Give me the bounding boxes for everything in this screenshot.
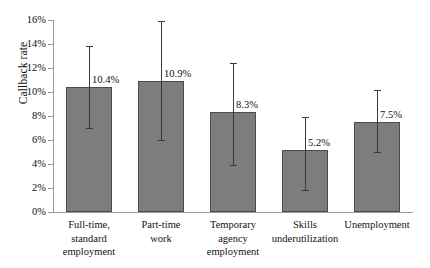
error-bar-cap-lower [374,152,381,153]
y-axis-tick [48,20,54,21]
y-axis-tick [48,44,54,45]
error-bar-cap-upper [158,21,165,22]
y-axis-tick-label: 12% [18,63,46,73]
x-axis-line [53,212,413,213]
error-bar-line [161,21,162,140]
error-bar-cap-lower [302,190,309,191]
y-axis-tick-label-wrap: 16% [16,15,46,25]
bar-value-label: 7.5% [380,109,402,120]
error-bar-line [89,46,90,128]
x-axis-category-label-line: employment [53,245,125,259]
x-axis-category-label-line: Skills [269,218,341,232]
y-axis-tick-label-wrap: 4% [16,159,46,169]
y-axis-tick-label-wrap: 0% [16,207,46,217]
x-axis-category-label: Full-time,standardemployment [53,218,125,259]
y-axis-tick-label: 14% [18,39,46,49]
x-axis-category-label: Skillsunderutilization [269,218,341,245]
y-axis-tick [48,188,54,189]
error-bar-line [377,90,378,152]
error-bar-cap-upper [374,90,381,91]
y-axis-tick [48,92,54,93]
y-axis-tick-label-wrap: 6% [16,135,46,145]
x-axis-category-label-line: standard [53,232,125,246]
y-axis-tick [48,68,54,69]
x-axis-category-label-line: Unemployment [341,218,413,232]
bar-value-label: 10.4% [92,74,119,85]
x-axis-category-label-line: employment [197,245,269,259]
error-bar-cap-lower [230,165,237,166]
x-axis-category-label: Unemployment [341,218,413,232]
x-axis-category-label-line: Temporary [197,218,269,232]
y-axis-tick [48,140,54,141]
y-axis-tick [48,212,54,213]
y-axis-tick [48,116,54,117]
y-axis-tick-label-wrap: 10% [16,87,46,97]
x-axis-category-label-line: underutilization [269,232,341,246]
error-bar-cap-upper [302,117,309,118]
y-axis-tick-label: 16% [18,15,46,25]
bar-value-label: 8.3% [236,99,258,110]
y-axis-tick-label: 4% [18,159,46,169]
error-bar-line [305,117,306,190]
x-axis-category-label-line: Part-time [125,218,197,232]
y-axis-tick-label: 6% [18,135,46,145]
x-axis-category-label-line: agency [197,232,269,246]
y-axis-tick-label-wrap: 12% [16,63,46,73]
x-axis-category-label: Part-timework [125,218,197,245]
y-axis-tick-label: 2% [18,183,46,193]
y-axis-tick [48,164,54,165]
y-axis-tick-label-wrap: 8% [16,111,46,121]
y-axis-tick-label-wrap: 14% [16,39,46,49]
y-axis-tick-label: 8% [18,111,46,121]
y-axis-tick-label: 0% [18,207,46,217]
bar-value-label: 5.2% [308,137,330,148]
error-bar-cap-lower [86,128,93,129]
error-bar-cap-lower [158,140,165,141]
y-axis-tick-label: 10% [18,87,46,97]
x-axis-category-label: Temporaryagencyemployment [197,218,269,259]
error-bar-line [233,63,234,165]
x-axis-category-label-line: Full-time, [53,218,125,232]
callback-rate-bar-chart: Callback rate 16%14%12%10%8%6%4%2%0% 10.… [0,0,430,268]
bar-value-label: 10.9% [164,68,191,79]
y-axis-tick-label-wrap: 2% [16,183,46,193]
error-bar-cap-upper [86,46,93,47]
x-axis-category-label-line: work [125,232,197,246]
error-bar-cap-upper [230,63,237,64]
